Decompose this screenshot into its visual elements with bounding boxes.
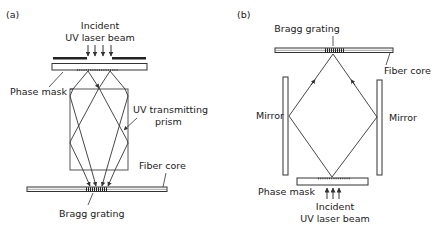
aperture-block-right	[112, 57, 146, 60]
diffracted-beams-b	[289, 54, 377, 177]
bragg-grating-label-a: Bragg grating	[59, 208, 125, 219]
diffracted-beams-a	[70, 71, 128, 186]
panel-b: (b) Bragg grating Fiber core Mirror Mirr…	[237, 9, 431, 224]
fiber-core-leader-a	[163, 173, 166, 187]
panel-a: (a) Incident UV laser beam Phase mask	[6, 9, 208, 219]
bragg-grating-leader-a	[88, 193, 93, 205]
phase-mask-b	[297, 178, 368, 185]
bragg-grating-label-b: Bragg grating	[274, 23, 340, 34]
mirror-right-label: Mirror	[389, 112, 417, 123]
phase-mask-label-a: Phase mask	[10, 86, 67, 97]
uv-transmitting-prism	[70, 89, 128, 170]
panel-b-tag: (b)	[237, 9, 250, 20]
panel-a-incident-label-line1: Incident	[81, 20, 120, 31]
prism-label-line1: UV transmitting	[133, 104, 208, 115]
prism-leader	[124, 118, 137, 130]
mirror-left-label: Mirror	[256, 110, 284, 121]
incident-beam-arrows-b	[327, 188, 339, 199]
phase-mask-a	[52, 64, 147, 71]
fiber-core-label-b: Fiber core	[384, 65, 431, 76]
incident-label-b-line1: Incident	[316, 201, 355, 212]
diagram-canvas: (a) Incident UV laser beam Phase mask	[0, 0, 443, 232]
panel-a-tag: (a)	[6, 9, 19, 20]
incident-beam-arrows	[88, 45, 111, 56]
phase-mask-label-b: Phase mask	[258, 186, 315, 197]
fiber-core-label-a: Fiber core	[139, 160, 186, 171]
panel-a-incident-label-line2: UV laser beam	[65, 32, 135, 43]
aperture-block-left	[53, 57, 87, 60]
phase-mask-leader-a	[49, 72, 63, 87]
prism-label-line2: prism	[155, 116, 182, 127]
incident-label-b-line2: UV laser beam	[300, 213, 370, 224]
mirror-right	[377, 80, 382, 175]
mirror-left	[283, 77, 288, 175]
fiber-core-leader-b	[386, 53, 390, 65]
